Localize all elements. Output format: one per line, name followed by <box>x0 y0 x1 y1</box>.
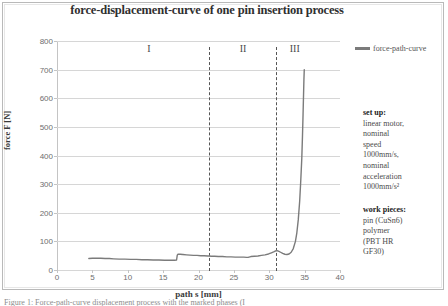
setup-line: nominal <box>363 129 447 140</box>
y-tick-label: 600 <box>40 94 53 103</box>
x-tick-mark <box>163 270 164 273</box>
setup-lines: linear motor,nominalspeed1000mm/s,nomina… <box>363 119 447 193</box>
x-tick-mark <box>199 270 200 273</box>
setup-line: speed <box>363 140 447 151</box>
setup-info-block: set up: linear motor,nominalspeed1000mm/… <box>363 108 447 193</box>
work-pieces-line: polymer <box>363 226 447 237</box>
work-pieces-line: (PBT HR <box>363 237 447 248</box>
y-tick-label: 0 <box>49 266 53 275</box>
work-pieces-heading: work pieces: <box>363 205 447 216</box>
y-axis-title: force F [N] <box>2 111 12 150</box>
setup-line: acceleration <box>363 172 447 183</box>
figure-container: force-displacement-curve of one pin inse… <box>0 0 448 306</box>
y-tick-label: 100 <box>40 237 53 246</box>
legend-line-swatch <box>355 47 370 50</box>
work-pieces-lines: pin (CuSn6)polymer(PBT HRGF30) <box>363 216 447 258</box>
setup-line: linear motor, <box>363 119 447 130</box>
x-tick-label: 35 <box>300 273 309 282</box>
y-tick-label: 800 <box>40 37 53 46</box>
y-tick-label: 300 <box>40 180 53 189</box>
x-tick-label: 25 <box>229 273 238 282</box>
plot-area: 0100200300400500600700800 05101520253035… <box>57 41 340 270</box>
work-pieces-line: pin (CuSn6) <box>363 216 447 227</box>
y-tick-label: 700 <box>40 65 53 74</box>
x-tick-mark <box>305 270 306 273</box>
setup-line: 1000mm/s² <box>363 182 447 193</box>
x-tick-mark <box>234 270 235 273</box>
setup-heading: set up: <box>363 108 447 119</box>
chart-title: force-displacement-curve of one pin inse… <box>57 3 357 18</box>
x-tick-mark <box>340 270 341 273</box>
work-pieces-line: GF30) <box>363 247 447 258</box>
x-tick-mark <box>128 270 129 273</box>
figure-caption: Figure 1: Force-path-curve displacement … <box>4 298 444 306</box>
x-tick-mark <box>57 270 58 273</box>
x-tick-label: 15 <box>159 273 168 282</box>
x-tick-label: 5 <box>90 273 94 282</box>
x-tick-label: 10 <box>123 273 132 282</box>
x-tick-label: 40 <box>336 273 345 282</box>
setup-line: 1000mm/s, <box>363 150 447 161</box>
x-tick-label: 30 <box>265 273 274 282</box>
setup-line: nominal <box>363 161 447 172</box>
x-tick-mark <box>269 270 270 273</box>
work-pieces-info-block: work pieces: pin (CuSn6)polymer(PBT HRGF… <box>363 205 447 258</box>
x-tick-mark <box>92 270 93 273</box>
x-tick-label: 20 <box>194 273 203 282</box>
chart-legend: force-path-curve <box>355 44 426 53</box>
y-tick-label: 200 <box>40 208 53 217</box>
legend-label: force-path-curve <box>373 44 426 53</box>
y-tick-label: 400 <box>40 151 53 160</box>
force-path-curve <box>57 41 340 270</box>
x-tick-label: 0 <box>55 273 59 282</box>
y-tick-label: 500 <box>40 122 53 131</box>
